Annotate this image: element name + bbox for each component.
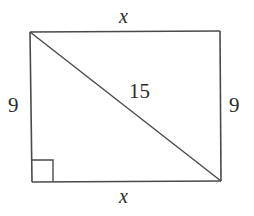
left-side [30, 32, 32, 182]
bottom-side [32, 181, 221, 182]
right-side [220, 31, 221, 181]
right-side-label: 9 [229, 95, 240, 116]
top-side [30, 31, 220, 32]
right-angle-marker-icon [32, 160, 53, 182]
diagonal-line [30, 32, 221, 181]
diagonal-label: 15 [129, 81, 150, 102]
bottom-side-label: x [119, 186, 128, 206]
rectangle-diagram [0, 0, 254, 216]
top-side-label: x [119, 6, 128, 26]
left-side-label: 9 [8, 95, 19, 116]
